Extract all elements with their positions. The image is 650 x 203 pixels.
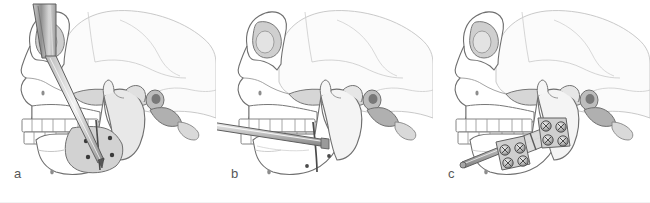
panel-a: a <box>0 0 216 203</box>
screw-hole <box>86 155 90 159</box>
rod-end-cap[interactable] <box>460 162 466 168</box>
infraorbital-foramen <box>258 90 261 95</box>
screw-hole <box>108 136 112 140</box>
styloid-region <box>395 122 416 140</box>
meatus-opening <box>586 94 595 104</box>
figure-container: a <box>0 0 650 203</box>
orbital-rim <box>473 31 491 53</box>
styloid-region <box>612 122 633 140</box>
skull-illustration-b <box>217 0 433 203</box>
skull-illustration-c <box>434 0 650 203</box>
upper-teeth <box>456 119 532 132</box>
meatus-opening <box>369 94 378 104</box>
panel-c: c <box>434 0 650 203</box>
panel-label-b: b <box>231 166 239 181</box>
infraorbital-foramen <box>41 90 44 95</box>
footplate-cluster-proximal[interactable] <box>538 118 570 148</box>
figure-baseline <box>0 202 650 203</box>
styloid-region <box>178 122 199 140</box>
screw-hole <box>110 153 114 157</box>
panel-label-a: a <box>14 166 22 181</box>
mental-foramen <box>267 170 271 175</box>
skull-illustration-a <box>0 0 216 203</box>
footplate-cluster-distal[interactable] <box>496 136 530 170</box>
mental-foramen <box>50 170 54 175</box>
panel-b: b <box>217 0 433 203</box>
mental-foramen <box>484 170 488 175</box>
meatus-opening <box>152 94 161 104</box>
orbital-rim <box>256 31 274 53</box>
panel-label-c: c <box>448 166 455 181</box>
screw-hole <box>327 154 331 158</box>
infraorbital-foramen <box>475 90 478 95</box>
rod-tip <box>321 138 329 149</box>
screw-hole <box>305 164 309 168</box>
